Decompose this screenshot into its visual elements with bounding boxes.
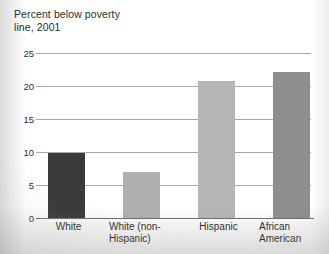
gridline [36, 119, 311, 120]
x-axis-category-label: Hispanic [183, 221, 254, 233]
y-axis-tick-label: 15 [14, 114, 34, 125]
gridline [36, 86, 311, 87]
y-axis-tick-label: 25 [14, 48, 34, 59]
bar [198, 81, 235, 218]
x-axis-category-label-line-1: White [33, 221, 104, 233]
x-axis-category-label-line-1: White (non- [109, 221, 180, 233]
x-axis-category-label-line-2: Hispanic) [109, 233, 180, 245]
x-axis-baseline [36, 218, 314, 219]
bar [273, 72, 310, 218]
x-axis-category-label: White [33, 221, 104, 233]
y-axis-tick-label: 10 [14, 147, 34, 158]
x-axis-category-label-line-2: American [259, 233, 329, 245]
chart-title-line-2: line, 2001 [14, 21, 214, 34]
plot-area: 0510152025 WhiteWhite (non-Hispanic)Hisp… [0, 0, 329, 254]
gridline [36, 53, 311, 54]
y-axis-tick-label: 20 [14, 81, 34, 92]
x-axis-category-label: AfricanAmerican [259, 221, 329, 245]
y-axis-tick-label: 0 [14, 213, 34, 224]
poverty-bar-chart-figure: 0510152025 WhiteWhite (non-Hispanic)Hisp… [0, 0, 329, 254]
x-axis-category-label-line-1: Hispanic [183, 221, 254, 233]
chart-title: Percent below poverty line, 2001 [14, 8, 214, 34]
bar [48, 153, 85, 218]
chart-title-line-1: Percent below poverty [14, 8, 214, 21]
bar [123, 172, 160, 218]
y-axis-tick-label: 5 [14, 180, 34, 191]
x-axis-category-label: White (non-Hispanic) [109, 221, 180, 245]
x-axis-category-label-line-1: African [259, 221, 329, 233]
